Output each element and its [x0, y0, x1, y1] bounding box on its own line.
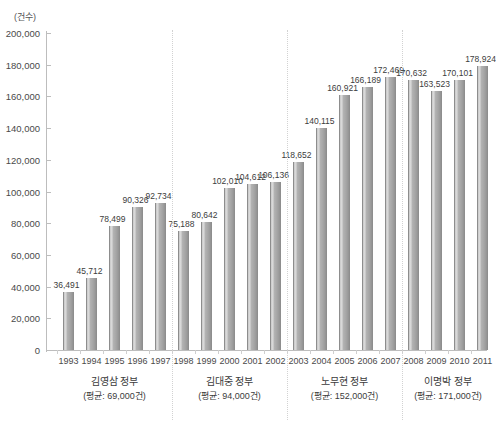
x-axis-tick [264, 350, 265, 354]
x-axis-tick [448, 350, 449, 354]
x-axis-tick-label: 2007 [380, 356, 400, 366]
bar [477, 66, 488, 350]
y-axis-tick [46, 65, 51, 66]
bar [431, 91, 442, 350]
y-axis-tick [46, 255, 51, 256]
y-axis-tick-label: 140,000 [6, 123, 40, 134]
y-axis-tick-labels: 020,00040,00060,00080,000100,000120,0001… [0, 33, 40, 350]
x-axis-tick-label: 2000 [219, 356, 239, 366]
bar [247, 184, 258, 350]
y-axis-tick-label: 0 [35, 345, 40, 356]
x-axis-tick [103, 350, 104, 354]
bar-value-label: 92,734 [146, 191, 172, 201]
x-axis-tick [195, 350, 196, 354]
era-name: 김대중 정부 [198, 374, 261, 389]
bar-value-label: 166,189 [350, 75, 381, 85]
y-axis-tick [46, 287, 51, 288]
x-axis-tick-label: 1993 [58, 356, 78, 366]
x-axis-tick [310, 350, 311, 354]
y-axis-tick-label: 100,000 [6, 186, 40, 197]
x-axis-tick-label: 1996 [127, 356, 147, 366]
y-axis-tick-label: 80,000 [11, 218, 40, 229]
x-axis-tick [356, 350, 357, 354]
x-axis-tick [218, 350, 219, 354]
x-axis-tick-label: 1994 [81, 356, 101, 366]
bar [408, 80, 419, 350]
era-annotation: 김영삼 정부(평균: 69,000건) [83, 374, 146, 404]
x-axis-tick-label: 2003 [288, 356, 308, 366]
bar [155, 203, 166, 350]
bar [178, 231, 189, 350]
x-axis-tick [333, 350, 334, 354]
era-name: 이명박 정부 [414, 374, 482, 389]
x-axis-tick [57, 350, 58, 354]
y-axis-tick [46, 223, 51, 224]
bar-value-label: 178,924 [465, 54, 496, 64]
y-axis-tick [46, 128, 51, 129]
x-axis-line [46, 350, 487, 351]
plot-area: 36,49145,71278,49990,32692,73475,18880,6… [46, 33, 487, 350]
y-axis-tick-label: 160,000 [6, 91, 40, 102]
y-axis-tick-label: 20,000 [11, 313, 40, 324]
y-axis-tick [46, 96, 51, 97]
bar-value-label: 80,642 [192, 210, 218, 220]
bar [362, 87, 373, 350]
x-axis-tick [241, 350, 242, 354]
bar-value-label: 170,632 [396, 68, 427, 78]
x-axis-tick-label: 2002 [265, 356, 285, 366]
y-axis-tick [46, 350, 51, 351]
x-axis-tick-label: 2009 [426, 356, 446, 366]
x-axis-tick-label: 1995 [104, 356, 124, 366]
y-axis-tick [46, 33, 51, 34]
x-axis-tick-label: 2008 [403, 356, 423, 366]
era-separator [402, 30, 404, 420]
bar [316, 128, 327, 350]
x-axis-tick [379, 350, 380, 354]
era-annotation: 김대중 정부(평균: 94,000건) [198, 374, 261, 404]
x-axis-tick-label: 1999 [196, 356, 216, 366]
bar-value-label: 45,712 [77, 266, 103, 276]
x-axis-tick-label: 2010 [449, 356, 469, 366]
x-axis-tick-label: 2004 [311, 356, 331, 366]
y-axis-unit-label: (건수) [14, 10, 36, 23]
x-axis-tick-label: 2011 [473, 356, 492, 366]
bar-value-label: 163,523 [419, 79, 450, 89]
bar [339, 95, 350, 350]
y-axis-tick-label: 180,000 [6, 59, 40, 70]
era-name: 노무현 정부 [311, 374, 379, 389]
bar-value-label: 118,652 [281, 150, 311, 160]
bar-value-label: 140,115 [304, 116, 334, 126]
bar [224, 188, 235, 350]
bar-value-label: 78,499 [100, 214, 126, 224]
bar [454, 80, 465, 350]
bar-value-label: 36,491 [54, 280, 80, 290]
era-annotation: 이명박 정부(평균: 171,000건) [414, 374, 482, 404]
bar [201, 222, 212, 350]
era-annotation: 노무현 정부(평균: 152,000건) [311, 374, 379, 404]
y-axis-tick-label: 200,000 [6, 28, 40, 39]
bar-value-label: 170,101 [442, 68, 473, 78]
x-axis-tick [80, 350, 81, 354]
x-axis-tick-label: 1998 [173, 356, 193, 366]
era-separator [287, 30, 289, 420]
x-axis-tick-label: 2006 [357, 356, 377, 366]
x-axis-tick-label: 1997 [150, 356, 170, 366]
y-axis-tick-label: 120,000 [6, 154, 40, 165]
y-axis-tick [46, 318, 51, 319]
y-axis-tick-label: 40,000 [11, 281, 40, 292]
x-axis-tick-label: 2001 [242, 356, 262, 366]
bar [63, 292, 74, 350]
x-axis-tick [425, 350, 426, 354]
y-axis-tick [46, 160, 51, 161]
era-average: (평균: 152,000건) [311, 389, 379, 404]
x-axis-tick [126, 350, 127, 354]
era-separator [172, 30, 174, 420]
era-average: (평균: 69,000건) [83, 389, 146, 404]
bar-value-label: 106,136 [258, 170, 289, 180]
x-axis-tick [471, 350, 472, 354]
bar [293, 162, 304, 350]
era-name: 김영삼 정부 [83, 374, 146, 389]
era-average: (평균: 94,000건) [198, 389, 261, 404]
bar [385, 77, 396, 350]
